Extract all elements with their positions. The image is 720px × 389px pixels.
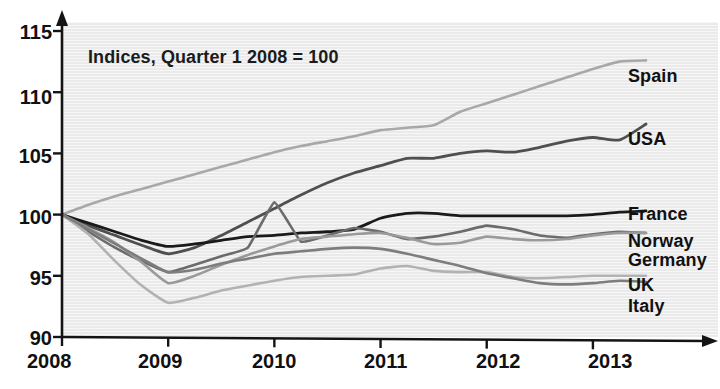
series-label-usa: USA — [628, 129, 666, 150]
series-label-uk: UK — [628, 275, 654, 296]
x-tick-label-2008: 2008 — [27, 350, 72, 373]
y-tick-label-95: 95 — [6, 267, 52, 290]
y-tick-label-115: 115 — [6, 21, 52, 44]
series-label-spain: Spain — [628, 66, 678, 87]
x-tick-label-2010: 2010 — [252, 350, 297, 373]
y-tick-label-110: 110 — [6, 86, 52, 109]
series-label-germany: Germany — [628, 250, 707, 271]
series-label-norway: Norway — [628, 231, 694, 252]
x-tick-label-2013: 2013 — [588, 350, 633, 373]
y-tick-label-105: 105 — [6, 145, 52, 168]
series-label-italy: Italy — [628, 296, 665, 317]
x-tick-label-2012: 2012 — [476, 350, 521, 373]
x-axis-arrow — [702, 335, 718, 347]
x-tick-label-2011: 2011 — [364, 350, 407, 373]
x-tick-label-2009: 2009 — [138, 350, 183, 373]
series-label-france: France — [628, 204, 688, 225]
y-axis-arrow — [56, 10, 68, 26]
chart-figure: 1151101051009590 20082009201020112012201… — [0, 0, 720, 389]
y-tick-label-90: 90 — [6, 327, 52, 350]
x-axis-line — [62, 337, 706, 341]
y-tick-label-100: 100 — [6, 206, 52, 229]
chart-annotation: Indices, Quarter 1 2008 = 100 — [88, 47, 339, 68]
